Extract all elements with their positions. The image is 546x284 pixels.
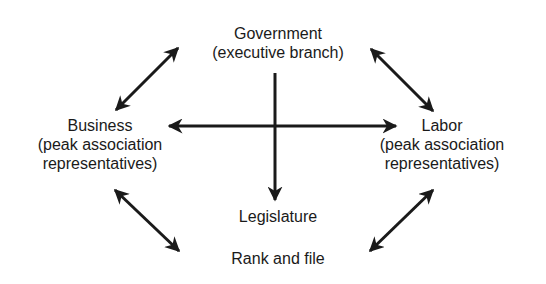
node-legislature: Legislature (213, 207, 343, 226)
business-subtitle-line1: (peak association (30, 135, 170, 154)
node-government: Government (executive branch) (188, 24, 368, 62)
corporatism-diagram: Government (executive branch) Business (… (0, 0, 546, 284)
government-subtitle: (executive branch) (188, 43, 368, 62)
business-subtitle-line2: representatives) (30, 154, 170, 173)
node-rank-and-file: Rank and file (203, 249, 353, 268)
arrow-labor-rankfile (370, 190, 433, 251)
labor-subtitle-line1: (peak association (372, 135, 512, 154)
node-labor: Labor (peak association representatives) (372, 116, 512, 173)
rank-and-file-title: Rank and file (203, 249, 353, 268)
labor-title: Labor (372, 116, 512, 135)
government-title: Government (188, 24, 368, 43)
business-title: Business (30, 116, 170, 135)
arrow-business-rankfile (115, 190, 179, 251)
arrow-government-labor (371, 49, 433, 111)
node-business: Business (peak association representativ… (30, 116, 170, 173)
labor-subtitle-line2: representatives) (372, 154, 512, 173)
arrow-government-business (116, 48, 178, 110)
legislature-title: Legislature (213, 207, 343, 226)
